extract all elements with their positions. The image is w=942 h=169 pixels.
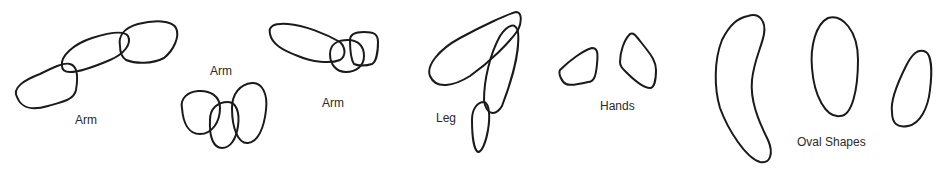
arm-circle-small: [330, 40, 364, 72]
arm-group-3: [270, 24, 378, 72]
label-oval-shapes: Oval Shapes: [797, 136, 866, 148]
leg-oval-thigh: [429, 12, 521, 85]
label-arm-3: Arm: [322, 97, 344, 109]
label-leg: Leg: [436, 112, 456, 124]
leg-oval-shin: [484, 26, 518, 113]
label-hands: Hands: [600, 100, 635, 112]
arm-oval-lower: [16, 64, 77, 109]
label-arm-1: Arm: [75, 114, 97, 126]
oval-vertical: [812, 17, 858, 116]
arm-circle-left: [182, 91, 220, 134]
hands-group: [559, 34, 656, 89]
arm-oval-long: [270, 24, 345, 62]
hand-left: [559, 48, 597, 85]
oval-tilted: [892, 51, 932, 127]
oval-banana: [716, 15, 771, 162]
label-arm-2: Arm: [210, 65, 232, 77]
arm-group-2: [182, 83, 267, 148]
arm-group-1: [16, 21, 177, 108]
hand-right: [620, 34, 656, 89]
arm-oval-middle: [62, 33, 129, 72]
leg-group: [429, 12, 521, 152]
